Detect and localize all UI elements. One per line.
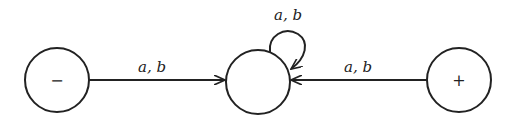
state-start-label: − <box>50 71 63 90</box>
transition-start-to-middle: a, b <box>89 58 225 80</box>
state-middle <box>226 50 290 114</box>
transition-label: a, b <box>138 58 166 76</box>
state-final: + <box>427 48 491 112</box>
diagram-canvas: − + a, b a, b a, b <box>0 0 516 115</box>
state-start: − <box>25 48 89 112</box>
transition-label: a, b <box>344 58 372 76</box>
automaton-diagram: − + a, b a, b a, b <box>0 0 516 115</box>
transition-final-to-middle: a, b <box>291 58 427 80</box>
transition-self-loop: a, b <box>270 6 305 69</box>
state-final-label: + <box>452 71 465 90</box>
transition-label: a, b <box>274 6 302 24</box>
